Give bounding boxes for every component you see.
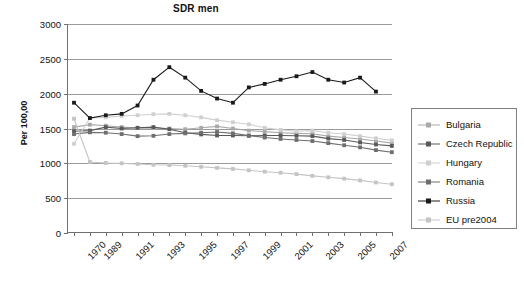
data-point-marker bbox=[136, 134, 140, 138]
data-point-marker bbox=[215, 134, 219, 138]
data-point-marker bbox=[104, 125, 108, 129]
data-point-marker bbox=[88, 123, 92, 127]
data-point-marker bbox=[295, 74, 299, 78]
data-point-marker bbox=[120, 112, 124, 116]
data-point-marker bbox=[183, 113, 187, 117]
data-point-marker bbox=[215, 166, 219, 170]
chart-legend: BulgariaCzech RepublicHungaryRomaniaRuss… bbox=[411, 108, 517, 229]
data-point-marker bbox=[247, 122, 251, 126]
data-point-marker bbox=[326, 137, 330, 141]
data-point-marker bbox=[88, 130, 92, 134]
data-point-marker bbox=[358, 179, 362, 183]
x-tick-label: 2001 bbox=[292, 239, 315, 262]
data-point-marker bbox=[310, 174, 314, 178]
data-point-marker bbox=[120, 132, 124, 136]
data-point-marker bbox=[279, 78, 283, 82]
data-point-marker bbox=[167, 112, 171, 116]
chart-figure: SDR men Per 100,00 050010001500200025003… bbox=[0, 0, 524, 298]
data-point-marker bbox=[263, 82, 267, 86]
data-point-marker bbox=[72, 125, 76, 129]
data-point-marker bbox=[342, 132, 346, 136]
data-point-marker bbox=[167, 132, 171, 136]
data-point-marker bbox=[310, 139, 314, 143]
data-point-marker bbox=[231, 120, 235, 124]
data-point-marker bbox=[374, 136, 378, 140]
data-point-marker bbox=[152, 78, 156, 82]
legend-item-russia[interactable]: Russia bbox=[412, 191, 516, 210]
data-point-marker bbox=[295, 129, 299, 133]
data-point-marker bbox=[231, 131, 235, 135]
legend-swatch-icon bbox=[418, 120, 440, 130]
data-point-marker bbox=[199, 115, 203, 119]
y-tick-label: 3000 bbox=[40, 19, 61, 30]
data-point-marker bbox=[136, 162, 140, 166]
y-tick-label: 500 bbox=[45, 193, 61, 204]
data-point-marker bbox=[231, 101, 235, 105]
series-line bbox=[74, 67, 376, 118]
legend-item-bulgaria[interactable]: Bulgaria bbox=[412, 115, 516, 134]
data-point-marker bbox=[104, 161, 108, 165]
data-point-marker bbox=[104, 131, 108, 135]
data-point-marker bbox=[72, 142, 76, 146]
legend-item-eu-pre2004[interactable]: EU pre2004 bbox=[412, 210, 516, 229]
legend-label: Romania bbox=[446, 176, 484, 187]
data-point-marker bbox=[295, 134, 299, 138]
data-point-marker bbox=[326, 141, 330, 145]
data-point-marker bbox=[326, 78, 330, 82]
data-point-marker bbox=[247, 129, 251, 133]
data-point-marker bbox=[120, 127, 124, 131]
data-point-marker bbox=[72, 117, 76, 121]
data-point-marker bbox=[295, 172, 299, 176]
data-point-marker bbox=[342, 81, 346, 85]
data-point-marker bbox=[358, 134, 362, 138]
data-point-marker bbox=[231, 167, 235, 171]
data-point-marker bbox=[263, 130, 267, 134]
legend-swatch-icon bbox=[418, 196, 440, 206]
data-point-marker bbox=[326, 131, 330, 135]
data-point-marker bbox=[342, 143, 346, 147]
data-point-marker bbox=[390, 138, 394, 142]
data-point-marker bbox=[167, 127, 171, 131]
legend-swatch-icon bbox=[418, 177, 440, 187]
data-point-marker bbox=[199, 165, 203, 169]
data-series-layer bbox=[68, 24, 393, 233]
data-point-marker bbox=[167, 65, 171, 69]
x-tick-label: 1995 bbox=[196, 239, 219, 262]
data-point-marker bbox=[247, 86, 251, 90]
legend-label: Russia bbox=[446, 195, 475, 206]
x-tick-label: 1997 bbox=[228, 239, 251, 262]
data-point-marker bbox=[358, 76, 362, 80]
legend-swatch-icon bbox=[418, 215, 440, 225]
y-tick-mark bbox=[64, 233, 68, 234]
data-point-marker bbox=[342, 177, 346, 181]
data-point-marker bbox=[152, 112, 156, 116]
data-point-marker bbox=[342, 138, 346, 142]
data-point-marker bbox=[279, 137, 283, 141]
y-tick-label: 2500 bbox=[40, 53, 61, 64]
legend-item-romania[interactable]: Romania bbox=[412, 172, 516, 191]
data-point-marker bbox=[310, 134, 314, 138]
data-point-marker bbox=[183, 76, 187, 80]
legend-label: Bulgaria bbox=[446, 119, 481, 130]
data-point-marker bbox=[358, 145, 362, 149]
data-point-marker bbox=[136, 113, 140, 117]
legend-item-hungary[interactable]: Hungary bbox=[412, 153, 516, 172]
data-point-marker bbox=[310, 129, 314, 133]
data-point-marker bbox=[72, 132, 76, 136]
y-axis-label: Per 100,00 bbox=[19, 83, 29, 163]
data-point-marker bbox=[215, 130, 219, 134]
x-tick-label: 2003 bbox=[324, 239, 347, 262]
data-point-marker bbox=[247, 134, 251, 138]
data-point-marker bbox=[72, 101, 76, 105]
plot-area: 050010001500200025003000 197019891991199… bbox=[67, 24, 392, 233]
data-point-marker bbox=[183, 131, 187, 135]
data-point-marker bbox=[326, 175, 330, 179]
legend-label: EU pre2004 bbox=[446, 214, 497, 225]
data-point-marker bbox=[247, 168, 251, 172]
data-point-marker bbox=[310, 70, 314, 74]
data-point-marker bbox=[167, 163, 171, 167]
legend-item-czech-republic[interactable]: Czech Republic bbox=[412, 134, 516, 153]
y-tick-label: 2000 bbox=[40, 88, 61, 99]
data-point-marker bbox=[263, 136, 267, 140]
data-point-marker bbox=[199, 89, 203, 93]
